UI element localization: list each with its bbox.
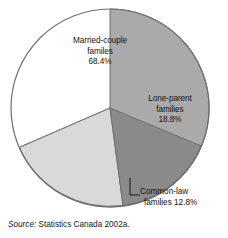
pie-chart-figure: Married-couple familes 68.4% Lone-parent… (0, 0, 228, 238)
slice-label-married-couple-value: 68.4% (48, 57, 152, 68)
slice-label-common-law-line2: families 12.8% (140, 198, 228, 209)
slice-label-married-couple-line2: familes (48, 47, 152, 58)
slice-label-lone-parent-line1: Lone-parent (128, 94, 212, 105)
slice-label-lone-parent-value: 18.8% (128, 115, 212, 126)
slice-label-lone-parent: Lone-parent families 18.8% (128, 94, 212, 126)
pie-slice-common-law[interactable] (19, 108, 123, 206)
source-note: Source: Statistics Canada 2002a. (8, 219, 130, 230)
source-text: Statistics Canada 2002a. (39, 220, 130, 229)
source-prefix: Source: (8, 220, 36, 229)
slice-label-married-couple: Married-couple familes 68.4% (48, 36, 152, 68)
slice-label-lone-parent-line2: families (128, 105, 212, 116)
slice-label-common-law-line1: Common-law (140, 187, 228, 198)
slice-label-married-couple-line1: Married-couple (48, 36, 152, 47)
slice-label-common-law: Common-law families 12.8% (140, 187, 228, 208)
